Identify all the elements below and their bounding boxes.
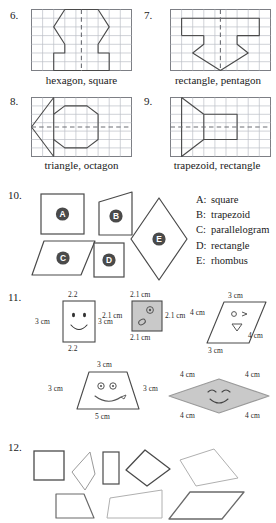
- problem-number-8: 8.: [10, 96, 18, 107]
- shape-e-rhombus: E: [128, 196, 190, 282]
- worksheet-page: 6. hexagon, square 7.: [0, 0, 276, 523]
- problem-12-shapes: [32, 448, 272, 520]
- answer-name-e: rhombus: [211, 255, 248, 266]
- dim-11-rect-top: 2.2: [68, 291, 77, 299]
- p12-shape-square: [34, 451, 64, 480]
- shape-11-trapezoid: [75, 370, 141, 412]
- shape-a-square: A: [39, 192, 87, 236]
- figure-8-grid: [31, 97, 132, 157]
- dim-11-trap-top: 3 cm: [97, 361, 112, 369]
- figure-8-caption: triangle, octagon: [26, 160, 137, 171]
- answer-row-c: C:parallelogram: [196, 222, 269, 237]
- dim-11-square-top: 2.1 cm: [130, 291, 150, 299]
- p12-shape-tall-rectangle: [103, 452, 119, 484]
- dim-11-rhom-bottom-right: 4 cm: [245, 412, 260, 420]
- shape-11-square: [131, 300, 163, 332]
- shape-11-rhombus: [167, 377, 271, 415]
- p12-shape-rhombus: [126, 450, 170, 486]
- problem-10-answer-key: A:square B:trapezoid C:parallelogram D:r…: [196, 192, 269, 268]
- shape-d-rectangle: D: [92, 241, 128, 279]
- dim-11-square-bottom: 2.1 cm: [130, 334, 150, 342]
- problem-number-12: 12.: [8, 442, 22, 453]
- dim-11-para-left: 4 cm: [190, 309, 205, 317]
- dim-11-para-bottom: 3 cm: [208, 347, 223, 355]
- p12-shape-kite: [180, 449, 238, 486]
- answer-key-e: E:: [196, 253, 211, 268]
- figure-7-grid: [170, 9, 271, 71]
- p12-shape-concave-quad: [72, 452, 95, 490]
- problem-number-10: 10.: [8, 190, 22, 201]
- dim-11-square-left: 2.1 cm: [102, 312, 122, 320]
- shape-11-rectangle: [62, 300, 96, 343]
- answer-row-b: B:trapezoid: [196, 207, 269, 222]
- shape-c-label: C: [60, 253, 66, 263]
- p12-shape-parallelogram: [169, 492, 244, 519]
- dim-11-rect-bottom: 2.2: [68, 345, 77, 353]
- answer-name-a: square: [211, 194, 238, 205]
- answer-row-e: E:rhombus: [196, 253, 269, 268]
- answer-key-d: D:: [196, 238, 211, 253]
- dim-11-trap-bottom: 5 cm: [95, 413, 110, 421]
- figure-6-grid: [31, 9, 132, 71]
- problem-number-11: 11.: [8, 292, 21, 303]
- dim-11-rhom-top-right: 4 cm: [245, 371, 260, 379]
- answer-name-d: rectangle: [211, 240, 249, 251]
- dim-11-rhom-top-left: 4 cm: [180, 371, 195, 379]
- figure-6-caption: hexagon, square: [31, 75, 132, 86]
- dim-11-para-top: 3 cm: [228, 292, 243, 300]
- figure-9-caption: trapezoid, rectangle: [158, 160, 276, 171]
- dim-11-trap-left: 3 cm: [48, 385, 63, 393]
- shape-a-label: A: [59, 209, 65, 219]
- shape-e-label: E: [156, 234, 162, 244]
- answer-row-d: D:rectangle: [196, 238, 269, 253]
- p12-shape-trapezoid: [56, 494, 94, 518]
- answer-row-a: A:square: [196, 192, 269, 207]
- problem-number-7: 7.: [144, 10, 152, 21]
- answer-key-b: B:: [196, 207, 211, 222]
- figure-9-grid: [170, 97, 271, 157]
- dim-11-rect-left: 3 cm: [35, 318, 50, 326]
- shape-c-parallelogram: C: [30, 239, 98, 278]
- answer-key-a: A:: [196, 192, 211, 207]
- problem-number-9: 9.: [144, 96, 152, 107]
- shape-d-label: D: [106, 255, 112, 265]
- problem-number-6: 6.: [10, 10, 18, 21]
- dim-11-rhom-bottom-left: 4 cm: [180, 412, 195, 420]
- answer-name-b: trapezoid: [211, 209, 250, 220]
- dim-11-trap-right: 3 cm: [143, 385, 158, 393]
- answer-name-c: parallelogram: [211, 224, 269, 235]
- figure-7-caption: rectangle, pentagon: [160, 75, 276, 86]
- dim-11-square-right: 2.1 cm: [165, 312, 185, 320]
- answer-key-c: C:: [196, 222, 211, 237]
- shape-b-label: B: [113, 211, 119, 221]
- dim-11-para-right: 4 cm: [248, 332, 263, 340]
- p12-shape-irregular-quad: [107, 490, 162, 518]
